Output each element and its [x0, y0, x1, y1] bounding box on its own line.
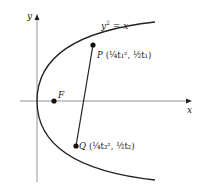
x-axis-arrow-icon [186, 99, 192, 104]
parabola-diagram: y x F y2 = x P(¼t₁², ½t₁) Q(¼t₂², ½t₂) [0, 0, 201, 189]
focus-dot [51, 98, 56, 103]
point-P-label: P(¼t₁², ½t₁) [96, 50, 151, 60]
x-axis-label: x [187, 105, 192, 115]
point-Q-dot [73, 143, 78, 148]
curve-equation-label: y2 = x [100, 19, 128, 31]
y-axis-label: y [26, 11, 33, 21]
point-Q-label: Q(¼t₂², ½t₂) [79, 141, 135, 151]
chord-PQ [76, 45, 93, 146]
y-axis-arrow-icon [35, 14, 40, 20]
point-P-dot [90, 42, 95, 47]
focus-label: F [57, 90, 65, 100]
